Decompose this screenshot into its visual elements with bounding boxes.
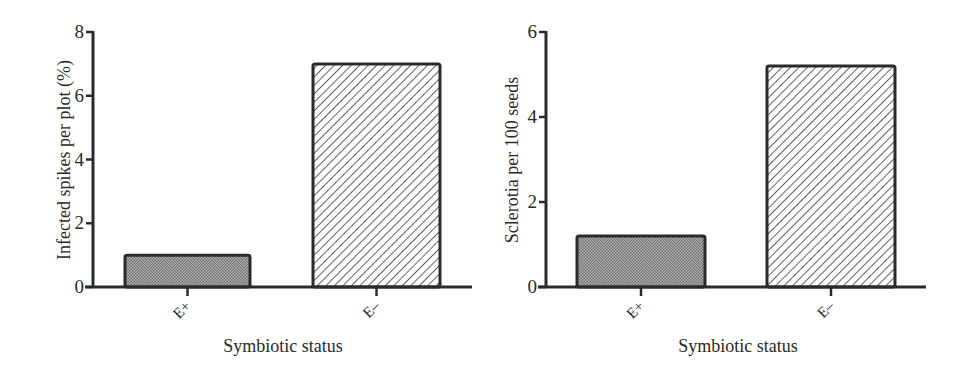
y-tick-label: 6 — [75, 85, 85, 106]
bar-e-minus — [767, 66, 895, 287]
bar-e-minus — [313, 64, 440, 287]
category-label: E– — [360, 297, 383, 320]
y-axis-title: Infected spikes per plot (%) — [54, 60, 75, 260]
chart-infected-spikes: 02468E+E–Infected spikes per plot (%)Sym… — [54, 21, 472, 356]
bar-e-plus — [125, 255, 250, 287]
y-axis-title: Sclerotia per 100 seeds — [502, 77, 522, 243]
figure-canvas: 02468E+E–Infected spikes per plot (%)Sym… — [0, 0, 972, 383]
category-label: E+ — [170, 298, 194, 322]
y-tick-label: 2 — [75, 212, 85, 233]
bar-e-plus — [577, 236, 705, 287]
category-label: E+ — [623, 298, 647, 322]
y-tick-label: 0 — [528, 276, 538, 297]
chart-sclerotia: 0246E+E–Sclerotia per 100 seedsSymbiotic… — [502, 21, 926, 356]
y-tick-label: 4 — [75, 149, 85, 170]
y-tick-label: 6 — [528, 21, 538, 42]
x-axis-title: Symbiotic status — [678, 336, 798, 356]
y-tick-label: 2 — [528, 191, 538, 212]
category-label: E– — [814, 297, 837, 320]
y-tick-label: 4 — [528, 106, 538, 127]
y-tick-label: 8 — [75, 21, 85, 42]
x-axis-title: Symbiotic status — [223, 336, 343, 356]
y-tick-label: 0 — [75, 276, 85, 297]
